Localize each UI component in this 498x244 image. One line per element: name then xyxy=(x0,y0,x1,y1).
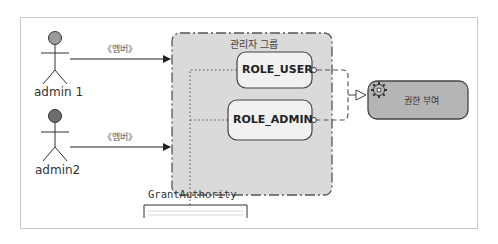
role-admin-label: ROLE_ADMIN xyxy=(233,113,313,126)
role-user-label: ROLE_USER xyxy=(242,63,313,76)
member-stereotype-1: 《멤버》 xyxy=(103,42,137,55)
actor-admin1-label: admin 1 xyxy=(34,85,83,99)
open-arrowhead xyxy=(356,90,366,100)
gear-icon xyxy=(371,82,387,98)
note-body-lines xyxy=(148,210,243,216)
task-label: 권한 부여 xyxy=(404,94,439,107)
grant-authority-note[interactable]: GrantAuthority xyxy=(148,188,237,200)
actor-admin1[interactable] xyxy=(41,32,69,85)
member-stereotype-2: 《멤버》 xyxy=(103,130,137,143)
actor-admin2[interactable] xyxy=(41,110,69,162)
actor-admin2-label: admin2 xyxy=(35,163,80,177)
group-title: 관리자 그룹 xyxy=(230,36,278,51)
